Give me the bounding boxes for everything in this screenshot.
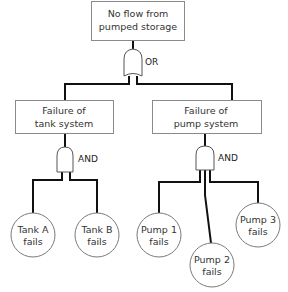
basic-event-pump-1: Pump 1 fails: [137, 213, 181, 257]
pump-and-gate: AND: [196, 146, 238, 170]
tank-system-line1: Failure of: [42, 105, 86, 116]
or-gate: OR: [124, 49, 158, 76]
fault-tree-diagram: No flow from pumped storage OR Failure o…: [0, 0, 288, 292]
tank-b-line1: Tank B: [80, 224, 112, 235]
pump-system-box: Failure of pump system: [153, 101, 262, 134]
top-event-box: No flow from pumped storage: [92, 2, 185, 41]
pump-system-line2: pump system: [174, 118, 239, 129]
tank-b-line2: fails: [87, 236, 106, 247]
pump-1-line1: Pump 1: [141, 224, 177, 235]
tank-system-box: Failure of tank system: [16, 101, 114, 134]
basic-event-tank-b: Tank B fails: [75, 213, 119, 257]
basic-event-pump-3: Pump 3 fails: [236, 203, 280, 247]
top-event-line2: pumped storage: [99, 21, 177, 32]
and-gate-icon: [57, 147, 73, 172]
tank-system-line2: tank system: [35, 118, 93, 129]
or-gate-icon: [124, 49, 142, 76]
tank-a-line2: fails: [23, 236, 42, 247]
pump-system-line1: Failure of: [184, 105, 228, 116]
or-gate-label: OR: [145, 57, 158, 67]
pump-2-line1: Pump 2: [194, 254, 230, 265]
pump-2-line2: fails: [202, 266, 221, 277]
pump-and-gate-label: AND: [218, 153, 238, 163]
tank-and-gate-label: AND: [78, 154, 98, 164]
tank-and-gate: AND: [57, 147, 98, 172]
pump-3-line2: fails: [248, 226, 267, 237]
tank-a-line1: Tank A: [16, 224, 49, 235]
and-gate-icon: [196, 146, 214, 170]
pump-3-line1: Pump 3: [240, 214, 276, 225]
top-event-line1: No flow from: [108, 8, 169, 19]
pump-1-line2: fails: [149, 236, 168, 247]
connector-wires: [33, 41, 258, 243]
basic-event-tank-a: Tank A fails: [11, 213, 55, 257]
basic-event-pump-2: Pump 2 fails: [190, 243, 234, 287]
